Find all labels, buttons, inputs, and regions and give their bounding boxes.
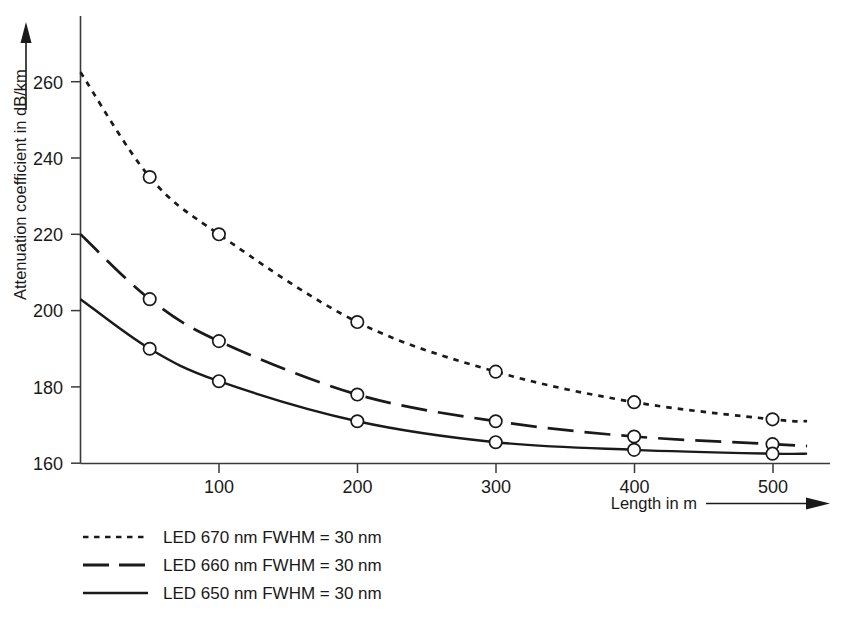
data-point-marker bbox=[490, 436, 502, 448]
data-point-marker bbox=[490, 415, 502, 427]
data-point-marker bbox=[213, 375, 225, 387]
data-point-marker bbox=[351, 415, 363, 427]
x-tick-label-300: 300 bbox=[481, 477, 511, 497]
data-point-marker bbox=[144, 293, 156, 305]
x-tick-label-500: 500 bbox=[758, 477, 788, 497]
x-axis-title-group: Length in m bbox=[611, 494, 830, 512]
legend-item-0[interactable]: LED 670 nm FWHM = 30 nm bbox=[83, 528, 382, 547]
legend-item-2[interactable]: LED 650 nm FWHM = 30 nm bbox=[83, 584, 382, 603]
series-1 bbox=[81, 234, 808, 450]
legend: LED 670 nm FWHM = 30 nm LED 660 nm FWHM … bbox=[83, 528, 382, 603]
y-tick-label-260: 260 bbox=[33, 73, 63, 93]
x-tick-label-100: 100 bbox=[204, 477, 234, 497]
series-line-1 bbox=[81, 234, 808, 446]
series-0 bbox=[81, 72, 808, 425]
data-point-marker bbox=[351, 388, 363, 400]
legend-label-2: LED 650 nm FWHM = 30 nm bbox=[163, 584, 382, 603]
chart-figure: Attenuation coefficient in dB/km 260 240… bbox=[0, 0, 842, 618]
data-point-marker bbox=[213, 228, 225, 240]
data-point-marker bbox=[144, 171, 156, 183]
y-tick-label-200: 200 bbox=[33, 301, 63, 321]
legend-label-0: LED 670 nm FWHM = 30 nm bbox=[163, 528, 382, 547]
data-point-marker bbox=[628, 430, 640, 442]
y-tick-label-160: 160 bbox=[33, 454, 63, 474]
y-axis-arrow-head bbox=[21, 22, 32, 43]
y-tick-label-240: 240 bbox=[33, 149, 63, 169]
data-point-marker bbox=[213, 335, 225, 347]
data-point-marker bbox=[766, 413, 778, 425]
x-axis-ticks: 100 200 300 400 500 bbox=[204, 464, 788, 498]
y-axis-ticks: 260 240 220 200 180 160 bbox=[33, 73, 81, 475]
series-layer bbox=[81, 72, 808, 460]
x-axis-title: Length in m bbox=[611, 494, 697, 512]
data-point-marker bbox=[766, 447, 778, 459]
y-tick-label-220: 220 bbox=[33, 225, 63, 245]
chart-svg: Attenuation coefficient in dB/km 260 240… bbox=[0, 0, 842, 618]
x-axis-arrow-head bbox=[806, 498, 830, 510]
legend-label-1: LED 660 nm FWHM = 30 nm bbox=[163, 556, 382, 575]
data-point-marker bbox=[144, 343, 156, 355]
data-point-marker bbox=[490, 365, 502, 377]
legend-item-1[interactable]: LED 660 nm FWHM = 30 nm bbox=[83, 556, 382, 575]
data-point-marker bbox=[628, 444, 640, 456]
y-axis-title-group: Attenuation coefficient in dB/km bbox=[11, 22, 32, 300]
axis-lines bbox=[81, 16, 831, 464]
series-2 bbox=[81, 299, 808, 460]
data-point-marker bbox=[351, 316, 363, 328]
y-tick-label-180: 180 bbox=[33, 378, 63, 398]
series-line-2 bbox=[81, 299, 808, 454]
data-point-marker bbox=[628, 396, 640, 408]
x-tick-label-200: 200 bbox=[342, 477, 372, 497]
